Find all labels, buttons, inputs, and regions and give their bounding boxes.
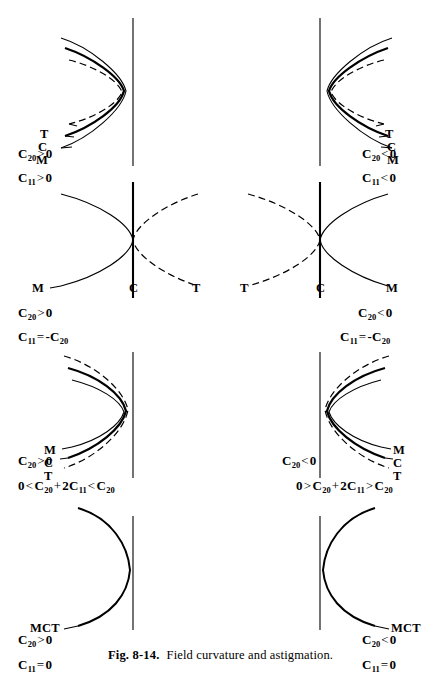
leader-m bbox=[50, 286, 61, 288]
panel-row2-right: T C M bbox=[240, 178, 420, 303]
curve-mct bbox=[323, 508, 375, 626]
panel-row4-right: MCT bbox=[255, 508, 405, 638]
condition-row4-left-a: C20>0 bbox=[18, 633, 53, 646]
curve-t bbox=[331, 60, 384, 124]
panel-row4-left: MCT bbox=[20, 508, 170, 638]
condition-row1-right-a: C20<0 bbox=[362, 147, 397, 160]
leader-mct bbox=[64, 626, 78, 629]
curve-label-t: T bbox=[393, 470, 402, 483]
leader-m bbox=[62, 447, 72, 449]
leader-c bbox=[65, 136, 74, 137]
curve-m bbox=[327, 38, 392, 148]
caption-figure-number: Fig. 8-14. bbox=[108, 648, 160, 662]
leader-t bbox=[376, 124, 384, 126]
leader-mct bbox=[375, 626, 389, 629]
curve-m bbox=[72, 380, 124, 447]
condition-row4-right-a: C20<0 bbox=[362, 633, 397, 646]
curve-label-c: C bbox=[129, 282, 138, 295]
condition-row3-right-a: C20<0 bbox=[282, 454, 317, 467]
curve-label-m: M bbox=[32, 282, 44, 295]
figure-caption: Fig. 8-14.Field curvature and astigmatio… bbox=[0, 648, 441, 663]
leader-c bbox=[385, 458, 393, 459]
curve-t bbox=[64, 356, 128, 468]
curve-label-t: T bbox=[385, 128, 394, 141]
leader-m bbox=[381, 447, 391, 449]
condition-row2-right-b: C11=-C20 bbox=[340, 330, 390, 343]
leader-c bbox=[60, 458, 68, 459]
condition-row1-left-a: C20>0 bbox=[18, 147, 53, 160]
curve-label-c: C bbox=[393, 457, 402, 470]
condition-row2-right-a: C20<0 bbox=[358, 306, 393, 319]
curve-label-t: T bbox=[240, 282, 249, 295]
condition-row3-left-b: 0<C20+2C11<C20 bbox=[18, 479, 115, 492]
curve-m bbox=[61, 194, 133, 286]
condition-row3-right-b: 0>C20+2C11>C20 bbox=[296, 479, 393, 492]
condition-row2-left-b: C11=-C20 bbox=[18, 330, 68, 343]
curve-label-m: M bbox=[393, 444, 405, 457]
curve-mct bbox=[78, 508, 130, 626]
panel-row3-right: M C T bbox=[255, 348, 405, 488]
curve-label-t: T bbox=[192, 282, 201, 295]
curve-label-c: C bbox=[316, 282, 325, 295]
curve-label-t: T bbox=[40, 128, 49, 141]
caption-text: Field curvature and astigmation. bbox=[160, 648, 334, 662]
curve-m bbox=[61, 38, 126, 148]
leader-t bbox=[69, 124, 77, 126]
curve-t bbox=[69, 60, 122, 124]
curve-m bbox=[320, 194, 388, 286]
curve-t bbox=[248, 194, 320, 286]
curve-t bbox=[325, 356, 389, 468]
curve-m bbox=[329, 380, 381, 447]
condition-row3-left-a: C20>0 bbox=[18, 454, 53, 467]
panel-row2-left: M C T bbox=[20, 178, 200, 303]
condition-row2-left-a: C20>0 bbox=[18, 306, 53, 319]
curve-label-m: M bbox=[386, 282, 398, 295]
curve-t bbox=[133, 194, 198, 286]
figure-field-curvature: T C M C20>0 C11>0 T C M C20<0 C11<0 bbox=[0, 0, 441, 677]
